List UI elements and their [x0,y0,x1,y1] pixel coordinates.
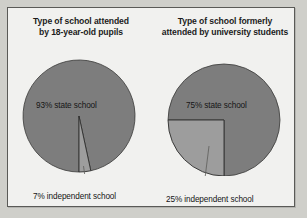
pie-left-caption-independent: 7% independent school [33,192,116,201]
figure-container: Type of school attended by 18-year-old p… [0,0,307,218]
chart-title-right: Type of school formerly attended by univ… [154,16,296,38]
chart-frame: Type of school attended by 18-year-old p… [7,7,295,207]
chart-title-left: Type of school attended by 18-year-old p… [8,16,154,38]
pie-left-label-state: 93% state school [36,101,97,110]
pie-chart-right [163,48,287,176]
pie-left-wrap [8,48,154,174]
pie-right-label-state: 75% state school [186,101,247,110]
pie-chart-left [21,48,141,174]
pie-right-caption-independent: 25% independent school [166,195,253,204]
pie-right-slice-independent [168,120,224,176]
chart-title-right-line1: Type of school formerly [178,16,272,26]
chart-panel-left: Type of school attended by 18-year-old p… [8,8,154,206]
chart-title-right-line2: attended by university students [154,27,296,38]
pie-right-wrap [154,48,296,176]
chart-title-left-line2: by 18-year-old pupils [8,27,154,38]
chart-title-left-line1: Type of school attended [33,16,129,26]
chart-panel-right: Type of school formerly attended by univ… [154,8,296,206]
